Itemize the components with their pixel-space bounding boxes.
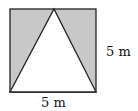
right-side-label: 5 m [106, 44, 131, 59]
bottom-side-label: 5 m [41, 95, 66, 110]
